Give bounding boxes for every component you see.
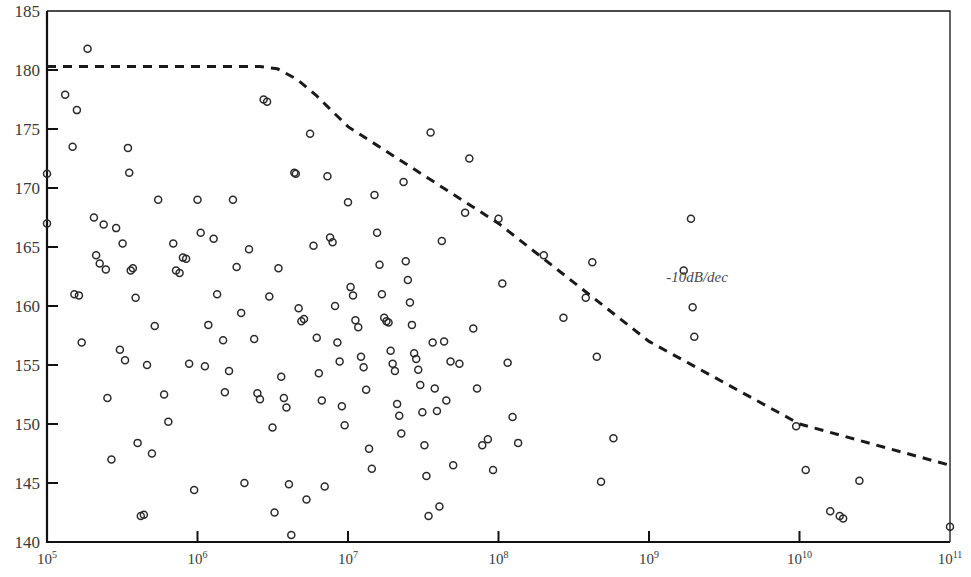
data-point <box>450 462 457 469</box>
data-point <box>560 314 567 321</box>
data-point <box>251 336 258 343</box>
y-tick-label: 180 <box>0 62 40 79</box>
data-point <box>598 478 605 485</box>
x-tick-label: 109 <box>619 552 679 567</box>
data-point <box>389 360 396 367</box>
data-point <box>332 303 339 310</box>
data-point <box>589 259 596 266</box>
data-point <box>269 424 276 431</box>
data-point <box>205 321 212 328</box>
data-point <box>229 196 236 203</box>
data-point <box>429 339 436 346</box>
data-point <box>151 323 158 330</box>
data-point <box>398 430 405 437</box>
y-tick-label: 155 <box>0 357 40 374</box>
y-tick-label: 160 <box>0 298 40 315</box>
data-point <box>119 240 126 247</box>
data-point <box>246 246 253 253</box>
data-point <box>593 353 600 360</box>
y-tick-label: 185 <box>0 3 40 20</box>
data-point <box>307 130 314 137</box>
data-point <box>415 366 422 373</box>
data-point <box>241 480 248 487</box>
data-point <box>318 397 325 404</box>
data-point <box>266 293 273 300</box>
data-point <box>75 292 82 299</box>
x-tick-label: 108 <box>469 552 529 567</box>
data-point <box>387 347 394 354</box>
data-point <box>100 221 107 228</box>
data-point <box>490 467 497 474</box>
data-point <box>447 358 454 365</box>
y-tick-label: 140 <box>0 534 40 551</box>
data-point <box>408 321 415 328</box>
data-point <box>687 215 694 222</box>
data-point <box>102 266 109 273</box>
data-point <box>295 305 302 312</box>
data-point <box>221 389 228 396</box>
data-point <box>433 408 440 415</box>
plot-frame-left-bottom <box>47 11 950 542</box>
x-tick-label: 107 <box>318 552 378 567</box>
reference-mask-line <box>47 66 950 465</box>
data-point <box>124 144 131 151</box>
data-point <box>374 229 381 236</box>
data-point <box>186 360 193 367</box>
data-point <box>610 435 617 442</box>
data-point <box>431 385 438 392</box>
scatter-chart: 140145150155160165170175180185 105106107… <box>0 0 971 577</box>
data-point <box>436 503 443 510</box>
data-point <box>396 412 403 419</box>
data-point <box>122 357 129 364</box>
data-point <box>470 325 477 332</box>
data-point <box>283 404 290 411</box>
data-point <box>104 395 111 402</box>
y-tick-label: 165 <box>0 239 40 256</box>
y-tick-label: 150 <box>0 416 40 433</box>
data-point <box>509 413 516 420</box>
plot-area <box>0 0 971 577</box>
data-point <box>96 260 103 267</box>
data-point <box>220 337 227 344</box>
data-point <box>73 107 80 114</box>
data-point <box>378 291 385 298</box>
data-point <box>165 418 172 425</box>
data-point <box>691 333 698 340</box>
data-point <box>108 456 115 463</box>
data-point <box>394 400 401 407</box>
data-point <box>462 209 469 216</box>
data-point <box>371 192 378 199</box>
data-point <box>404 277 411 284</box>
x-tick-label: 1011 <box>920 552 971 567</box>
x-tick-label: 105 <box>17 552 77 567</box>
x-tick-label: 1010 <box>770 552 830 567</box>
data-point <box>438 238 445 245</box>
data-point <box>352 317 359 324</box>
data-point <box>90 214 97 221</box>
data-point <box>271 509 278 516</box>
slope-annotation-label: -10dB/dec <box>666 269 728 286</box>
data-point <box>417 382 424 389</box>
data-point <box>321 483 328 490</box>
data-point <box>484 436 491 443</box>
data-point <box>689 304 696 311</box>
data-point <box>479 442 486 449</box>
data-point <box>126 169 133 176</box>
data-point <box>368 465 375 472</box>
data-point <box>391 367 398 374</box>
data-point <box>132 294 139 301</box>
data-point <box>210 235 217 242</box>
plot-frame-top-right <box>47 11 950 542</box>
y-tick-label: 145 <box>0 475 40 492</box>
data-point <box>499 280 506 287</box>
data-point <box>78 339 85 346</box>
y-tick-label: 175 <box>0 121 40 138</box>
data-point <box>856 477 863 484</box>
data-point <box>201 363 208 370</box>
data-point <box>345 199 352 206</box>
data-point <box>256 396 263 403</box>
data-point <box>62 91 69 98</box>
data-point <box>214 291 221 298</box>
data-point <box>355 324 362 331</box>
data-point <box>366 445 373 452</box>
